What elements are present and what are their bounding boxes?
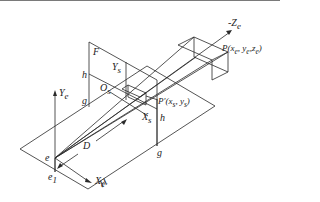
point-p-label: P(xe, ye,ze): [222, 44, 262, 55]
neg-ze-label: -Ze: [228, 18, 241, 31]
os-origin-label: Os: [100, 83, 111, 96]
xs-axis-label: Xs: [142, 112, 152, 125]
ye-axis-label: Ye: [59, 88, 69, 101]
xe-axis: [55, 158, 88, 181]
g-right-label: g: [157, 148, 162, 158]
h-right-label: h: [160, 113, 165, 123]
e1-label: e1: [48, 172, 57, 185]
g-left-label: g: [82, 96, 87, 106]
eye-label: e: [45, 153, 49, 163]
ys-axis-label: Ys: [112, 62, 121, 75]
h-left-label: h: [82, 70, 87, 80]
distance-d-label: D: [83, 141, 90, 151]
point-p-prime-label: P′(xs, ys): [158, 97, 190, 108]
plane-f-label: F: [93, 47, 99, 57]
